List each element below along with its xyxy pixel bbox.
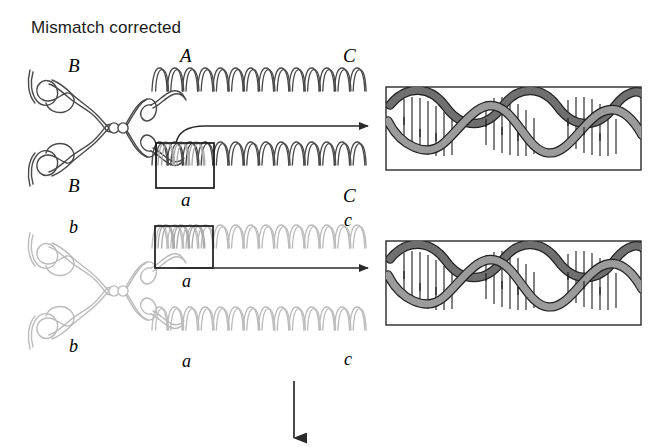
label-lower-mid-top: a xyxy=(182,272,191,290)
centromere-upper xyxy=(28,70,186,186)
label-upper-right-top: C xyxy=(343,46,356,65)
dna-double-helix-inset-lower xyxy=(386,241,644,325)
label-lower-right-top: c xyxy=(344,211,352,229)
label-lower-mid-bottom: a xyxy=(182,352,191,370)
label-upper-left-bottom: B xyxy=(68,176,80,195)
label-upper-right-bottom: C xyxy=(343,186,356,205)
chromatid-upper-1 xyxy=(152,68,366,91)
chromosome-lower xyxy=(28,225,368,349)
chromatid-upper-2 xyxy=(152,142,366,165)
chromatid-lower-2 xyxy=(152,307,366,330)
label-upper-left-top: B xyxy=(68,56,80,75)
label-upper-mid-bottom: a xyxy=(181,190,191,209)
diagram-canvas xyxy=(0,0,649,447)
label-lower-left-bottom: b xyxy=(69,337,78,355)
dna-double-helix-inset-upper xyxy=(386,87,644,170)
chromosome-upper xyxy=(28,68,368,188)
callout-arrow-upper xyxy=(176,126,368,144)
label-lower-left-top: b xyxy=(69,218,78,236)
chromatid-lower-1 xyxy=(152,225,366,248)
label-upper-mid-top: A xyxy=(180,46,192,65)
centromere-lower xyxy=(28,233,186,349)
label-lower-right-bottom: c xyxy=(344,350,352,368)
figure-root: Mismatch corrected xyxy=(0,0,649,447)
